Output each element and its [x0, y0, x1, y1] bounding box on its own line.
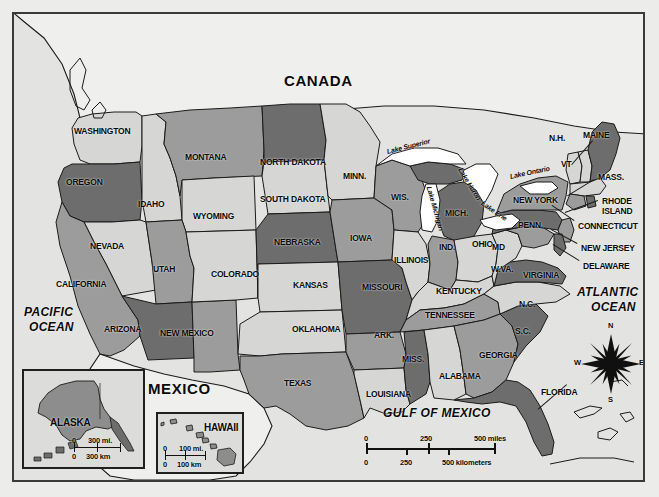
main-scale-bar: 0 250 500 miles 0 250 500 kilometers: [364, 434, 544, 482]
state-label-vt: VT: [561, 159, 571, 169]
state-label-kentucky: KENTUCKY: [436, 286, 482, 296]
state-wyoming: [182, 176, 256, 232]
state-label-ohio: OHIO: [472, 239, 493, 249]
state-label-nevada: NEVADA: [90, 241, 124, 251]
hawaii-scale-tick-left: [165, 451, 166, 460]
compass-west-label: W: [574, 358, 581, 367]
state-label-mass: MASS.: [598, 172, 624, 182]
scale-tick-mid-miles: [428, 443, 430, 454]
alaska-inset[interactable]: ALASKA 0 300 mi. 0 300 km: [22, 369, 145, 469]
state-iowa: [330, 198, 394, 262]
state-label-virginia: VIRGINIA: [523, 270, 559, 280]
state-label-utah: UTAH: [153, 264, 175, 274]
scale-km-tick-2: 500 kilometers: [442, 458, 491, 467]
state-label-new-york: NEW YORK: [513, 195, 558, 205]
scale-km-tick-0: 0: [364, 458, 368, 467]
state-label-maine: MAINE: [583, 130, 609, 140]
state-south-dakota: [262, 160, 330, 214]
state-label-rhode: RHODE: [602, 196, 632, 206]
state-label-missouri: MISSOURI: [362, 282, 402, 292]
state-north-dakota: [262, 104, 326, 162]
state-label-mich: MICH.: [445, 208, 468, 218]
compass-south-label: S: [608, 395, 613, 404]
state-label-iowa: IOWA: [350, 233, 372, 243]
country-label-canada: CANADA: [284, 72, 353, 89]
state-oregon: [58, 162, 142, 222]
state-label-montana: MONTANA: [185, 152, 226, 162]
state-label-kansas: KANSAS: [293, 280, 328, 290]
ocean-label-gulf-of-mexico-4: GULF OF MEXICO: [383, 406, 491, 420]
state-label-md: MD: [492, 242, 505, 252]
state-label-california: CALIFORNIA: [56, 279, 106, 289]
scale-miles-tick-0: 0: [364, 434, 368, 443]
state-label-alabama: ALABAMA: [439, 371, 481, 381]
hawaii-inset[interactable]: HAWAII 0 100 mi. 0 100 km: [156, 412, 244, 474]
state-label-colorado: COLORADO: [211, 269, 259, 279]
state-label-georgia: GEORGIA: [479, 350, 518, 360]
state-label-florida: FLORIDA: [541, 387, 577, 397]
scale-miles-tick-2: 500 miles: [474, 434, 506, 443]
state-label-s-c: S.C.: [515, 326, 531, 336]
alaska-scale-tick-mid: [97, 443, 98, 452]
state-label-nebraska: NEBRASKA: [274, 237, 321, 247]
state-label-arizona: ARIZONA: [104, 324, 141, 334]
scale-km-tick-1: 250: [400, 458, 412, 467]
scale-tick-mid-km: [406, 448, 408, 455]
state-colorado: [186, 230, 258, 302]
state-missouri: [338, 260, 412, 334]
hawaii-label: HAWAII: [204, 422, 238, 433]
compass-north-label: N: [608, 321, 613, 330]
map-frame: Lake SuperiorLake MichiganLake HuronLake…: [12, 12, 645, 482]
ocean-label-atlantic-2: ATLANTIC: [577, 285, 639, 299]
state-label-delaware: DELAWARE: [583, 261, 630, 271]
ocean-label-ocean-3: OCEAN: [591, 300, 636, 314]
hawaii-scale-km-0: 0: [163, 460, 167, 469]
state-label-oklahoma: OKLAHOMA: [292, 324, 340, 334]
state-label-wyoming: WYOMING: [193, 211, 234, 221]
state-label-ind: IND.: [439, 242, 455, 252]
state-label-tennessee: TENNESSEE: [425, 310, 475, 320]
state-label-louisiana: LOUISIANA: [366, 389, 411, 399]
state-label-washington: WASHINGTON: [74, 126, 130, 136]
ocean-label-pacific-0: PACIFIC: [24, 305, 73, 319]
scale-tick-right-km: [448, 448, 450, 455]
hawaii-scale-km-1: 100 km: [177, 460, 201, 469]
state-label-w-va: W.VA.: [491, 264, 513, 274]
state-label-wis: WIS.: [391, 192, 409, 202]
scale-miles-tick-1: 250: [420, 434, 432, 443]
hawaii-scale-tick-right: [205, 451, 206, 460]
state-label-new-mexico: NEW MEXICO: [160, 328, 214, 338]
state-label-idaho: IDAHO: [138, 199, 164, 209]
country-label-mexico: MEXICO: [148, 380, 211, 397]
state-label-minn: MINN.: [343, 171, 366, 181]
scale-tick-left: [366, 443, 368, 454]
alaska-scale-km-0: 0: [72, 452, 76, 461]
state-label-north-dakota: NORTH DAKOTA: [260, 157, 326, 167]
state-label-island: ISLAND: [602, 206, 632, 216]
state-label-illinois: ILLINOIS: [394, 255, 428, 265]
hawaii-scale-mi-1: 100 mi.: [179, 444, 203, 453]
state-label-n-c: N.C.: [519, 299, 535, 309]
scale-tick-right-miles: [494, 443, 496, 454]
alaska-label: ALASKA: [50, 417, 90, 428]
state-label-oregon: OREGON: [66, 177, 103, 187]
alaska-scale-km-1: 300 km: [86, 452, 110, 461]
alaska-scale-tick-left: [74, 443, 75, 452]
ocean-label-ocean-1: OCEAN: [29, 320, 74, 334]
state-label-connecticut: CONNECTICUT: [578, 221, 638, 231]
state-label-penn: PENN.: [518, 220, 543, 230]
alaska-scale-tick-right: [120, 443, 121, 452]
state-label-n-h: N.H.: [549, 133, 565, 143]
state-label-south-dakota: SOUTH DAKOTA: [260, 194, 325, 204]
compass-east-label: E: [639, 358, 644, 367]
state-label-ark: ARK.: [374, 330, 394, 340]
state-label-miss: MISS.: [402, 354, 424, 364]
alaska-scale-mi-1: 300 mi.: [88, 436, 112, 445]
state-label-texas: TEXAS: [284, 378, 311, 388]
map-root: Lake SuperiorLake MichiganLake HuronLake…: [0, 0, 659, 497]
state-washington: [72, 112, 142, 164]
state-label-new-jersey: NEW JERSEY: [581, 243, 635, 253]
compass-rose: [576, 329, 645, 399]
hawaii-scale-tick-mid: [185, 451, 186, 460]
scale-axis-line: [366, 448, 496, 450]
